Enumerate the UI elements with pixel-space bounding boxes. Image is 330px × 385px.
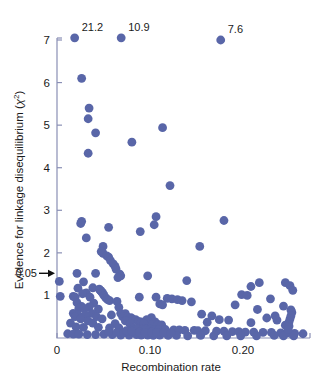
data-point <box>287 311 296 320</box>
y-axis-tick-label: 1 <box>44 289 50 301</box>
data-point <box>91 128 100 137</box>
data-point <box>243 291 252 300</box>
data-point <box>236 331 245 340</box>
data-point <box>182 276 191 285</box>
outlier-label-1: 21.2 <box>82 21 103 33</box>
data-point <box>158 300 167 309</box>
data-point <box>98 314 107 323</box>
data-point <box>77 74 86 83</box>
data-point <box>82 234 91 243</box>
x-axis-tick-label: 0.10 <box>139 344 161 356</box>
data-point <box>183 331 192 340</box>
data-points-layer <box>55 33 307 340</box>
data-point <box>84 114 93 123</box>
data-point <box>252 331 261 340</box>
data-point <box>231 300 240 309</box>
y-axis-tick-label: 6 <box>44 77 50 89</box>
data-point <box>114 273 123 282</box>
data-point <box>178 296 187 305</box>
data-point <box>196 331 205 340</box>
y-axis-tick-label: 4 <box>44 162 51 174</box>
outlier-label-3: 7.6 <box>228 23 243 35</box>
data-point <box>70 33 79 42</box>
data-point <box>215 315 224 324</box>
data-point <box>127 327 136 336</box>
data-point <box>117 33 126 42</box>
data-point <box>74 330 83 339</box>
data-point <box>187 297 196 306</box>
data-point <box>127 138 136 147</box>
data-point <box>253 305 262 314</box>
y-axis-tick-label: 3 <box>44 204 50 216</box>
data-point <box>299 329 308 338</box>
y-axis-tick-label: 5 <box>44 119 50 131</box>
data-point <box>284 325 293 334</box>
data-point <box>197 310 206 319</box>
data-point <box>247 318 256 327</box>
y-axis-title-close: ) <box>13 91 25 95</box>
data-point <box>279 302 288 311</box>
data-point <box>56 292 65 301</box>
data-point <box>105 296 114 305</box>
data-point <box>288 286 297 295</box>
data-point <box>195 242 204 251</box>
data-point <box>224 316 233 325</box>
data-point <box>85 104 94 113</box>
data-point <box>83 330 92 339</box>
data-point <box>216 36 225 45</box>
data-point <box>209 331 218 340</box>
data-point <box>150 220 159 229</box>
outlier-label-2: 10.9 <box>128 21 149 33</box>
chart-canvas: 123456700.100.20 0.0521.210.97.6 Recombi… <box>0 0 330 385</box>
data-point <box>220 216 229 225</box>
data-point <box>152 212 161 221</box>
data-point <box>222 331 231 340</box>
data-point <box>84 149 93 158</box>
data-point <box>91 330 100 339</box>
significance-threshold-arrow-head <box>48 270 55 277</box>
data-point <box>55 277 64 286</box>
data-point <box>247 282 256 291</box>
x-axis-tick-label: 0 <box>54 344 60 356</box>
annotation-layer: 0.0521.210.97.6 <box>16 21 243 279</box>
data-point <box>166 181 175 190</box>
y-axis-title: Evidence for linkage disequilibrium (χ2) <box>12 91 26 290</box>
data-point <box>135 293 144 302</box>
scatter-plot-figure: 123456700.100.20 0.0521.210.97.6 Recombi… <box>0 0 330 385</box>
data-point <box>136 227 145 236</box>
data-point <box>262 314 271 323</box>
data-point <box>158 123 167 132</box>
y-axis-title-base: Evidence for linkage disequilibrium ( <box>13 105 25 289</box>
axis-spines <box>57 38 310 338</box>
data-point <box>73 269 82 278</box>
data-point <box>255 278 264 287</box>
data-point <box>76 314 85 323</box>
data-point <box>273 316 282 325</box>
data-point <box>270 331 279 340</box>
data-point <box>104 223 113 232</box>
data-point <box>203 318 212 327</box>
data-point <box>143 271 152 280</box>
y-axis-tick-label: 2 <box>44 247 50 259</box>
data-point <box>104 328 113 337</box>
data-point <box>266 294 275 303</box>
x-axis-title: Recombination rate <box>121 361 221 373</box>
data-point <box>107 311 116 320</box>
data-point <box>76 219 85 228</box>
data-point <box>91 269 100 278</box>
y-axis-tick-label: 7 <box>44 34 50 46</box>
data-point <box>167 328 176 337</box>
x-axis-tick-label: 0.20 <box>232 344 254 356</box>
